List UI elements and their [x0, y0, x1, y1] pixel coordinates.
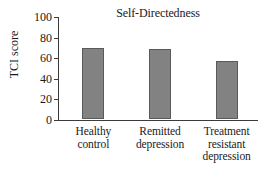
bar	[216, 61, 238, 119]
bar-chart-figure: Self-Directedness TCI score 100806040200…	[0, 0, 267, 180]
y-tick-label: 20	[40, 93, 52, 105]
y-tick-mark	[54, 120, 58, 121]
y-tick-mark	[54, 79, 58, 80]
x-axis-category-label-line: resistant	[191, 138, 263, 151]
plot-area: 100806040200	[58, 17, 258, 120]
x-axis-category-label-line: control	[57, 138, 129, 151]
bar	[149, 49, 171, 119]
bar	[82, 48, 104, 119]
y-axis-line	[58, 17, 59, 120]
y-tick-label: 100	[34, 11, 52, 23]
x-axis-category-label: Treatmentresistantdepression	[191, 125, 263, 163]
x-axis-category-labels: HealthycontrolRemitteddepressionTreatmen…	[58, 125, 258, 180]
y-tick-label: 0	[46, 114, 52, 126]
x-axis-category-label-line: depression	[191, 150, 263, 163]
x-axis-category-label: Remitteddepression	[124, 125, 196, 150]
y-tick-label: 80	[40, 32, 52, 44]
y-tick-mark	[54, 58, 58, 59]
y-tick-label: 60	[40, 52, 52, 64]
x-axis-category-label-line: Treatment	[191, 125, 263, 138]
y-tick-mark	[54, 99, 58, 100]
y-tick-label: 40	[40, 73, 52, 85]
x-axis-category-label-line: depression	[124, 138, 196, 151]
x-axis-category-label-line: Remitted	[124, 125, 196, 138]
x-axis-category-label: Healthycontrol	[57, 125, 129, 150]
x-axis-category-label-line: Healthy	[57, 125, 129, 138]
y-axis-label: TCI score	[8, 15, 21, 95]
y-tick-mark	[54, 17, 58, 18]
y-tick-mark	[54, 38, 58, 39]
x-axis-line	[58, 120, 258, 121]
